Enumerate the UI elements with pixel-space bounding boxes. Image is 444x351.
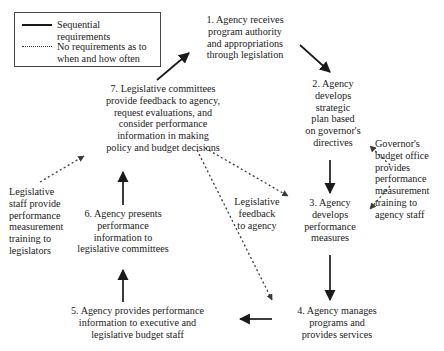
annotation-legislative-feedback: Legislative feedback to agency [226,196,288,231]
edge-legislative-staff-to-7 [40,156,84,182]
node-5-agency-provides-performance-information: 5. Agency provides performance informati… [40,305,235,340]
edge-7-to-3 [205,148,288,196]
annotation-governors-budget-office: Governor's budget office provides perfor… [375,138,441,221]
solid-line-icon [22,24,52,26]
node-1-agency-receives-program-authority: 1. Agency receives program authority and… [186,14,304,61]
legend: Sequential requirements No requirements … [14,12,161,67]
annotation-legislative-staff: Legislative staff provide performance me… [9,186,82,257]
node-7-legislative-committees-provide-feedback: 7. Legislative committees provide feedba… [57,83,269,154]
node-3-agency-develops-performance-measures: 3. Agency develops performance measures [292,197,368,244]
edge-7-to-1 [157,53,189,80]
node-2-agency-develops-strategic-plan: 2. Agency develops strategic plan based … [295,78,371,149]
legend-item-sequential: Sequential requirements [22,19,110,43]
legend-item-label: No requirements as to when and how often [57,41,147,65]
dotted-line-icon [22,46,52,47]
legend-item-label: Sequential requirements [57,19,110,43]
flowchart-diagram: Sequential requirements No requirements … [0,0,444,351]
edge-1-to-2 [300,45,330,72]
node-4-agency-manages-programs: 4. Agency manages programs and provides … [278,305,396,340]
legend-item-no-requirements: No requirements as to when and how often [22,41,147,65]
